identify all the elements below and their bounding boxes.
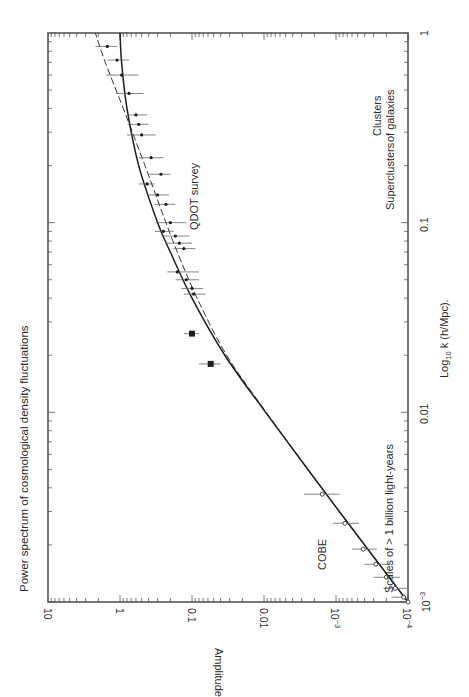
clusters-annotation: Clusters of galaxies	[371, 89, 397, 142]
data-point	[184, 293, 206, 296]
clusters-line-1: Clusters	[371, 89, 384, 142]
data-point	[352, 547, 377, 551]
k-tick-label: 1	[418, 30, 430, 36]
k-axis-suffix: k (h/Mpc).	[438, 299, 450, 351]
data-point	[163, 234, 189, 237]
data-point	[106, 73, 138, 76]
data-point	[184, 331, 199, 337]
data-point	[128, 123, 149, 126]
axis-ticks	[48, 33, 408, 602]
amplitude-tick-label: 10−4	[401, 608, 415, 628]
data-point	[156, 221, 187, 224]
data-point	[304, 492, 339, 496]
data-point	[199, 361, 221, 367]
data-point	[400, 600, 410, 604]
cobe-annotation: COBE	[316, 539, 329, 570]
plot-frame	[48, 33, 408, 602]
clusters-line-2: of galaxies	[384, 89, 397, 142]
model-curve-dashed	[95, 33, 408, 602]
amplitude-tick-label: 0.1	[186, 608, 198, 623]
qdot-annotation: QDOT survey	[188, 163, 201, 230]
data-point	[147, 193, 169, 196]
data-point	[149, 173, 171, 176]
data-point	[127, 113, 147, 116]
data-point	[174, 247, 196, 250]
model-curves	[95, 33, 408, 602]
data-point	[116, 92, 144, 95]
k-tick-label: 10−3	[418, 592, 432, 612]
amplitude-tick-label: 10	[42, 608, 54, 620]
k-tick-label: 0.01	[418, 404, 430, 424]
amplitude-tick-label: 10−3	[329, 608, 343, 628]
data-point	[95, 45, 117, 48]
data-point	[391, 595, 408, 599]
data-point	[181, 287, 203, 290]
superclusters-annotation: Superclusters	[384, 143, 397, 210]
data-point	[107, 58, 129, 61]
data-point	[175, 278, 199, 281]
billion-lightyears-annotation: Scales of > 1 billion light-years	[383, 444, 396, 593]
plot-border	[48, 33, 408, 602]
data-point	[333, 521, 359, 525]
k-tick-label: 0.1	[418, 217, 430, 232]
k-axis-label: Log10 k (h/Mpc).	[438, 299, 453, 378]
amplitude-tick-label: 1	[114, 608, 126, 614]
amplitude-axis-label: Amplitude	[213, 648, 225, 697]
data-point	[166, 242, 192, 245]
k-axis-log: Log	[438, 360, 450, 378]
data-point	[155, 230, 174, 233]
amplitude-tick-label: 0.01	[258, 608, 270, 628]
data-point	[155, 203, 176, 206]
k-axis-sub: 10	[444, 351, 453, 359]
data-point	[167, 270, 199, 273]
chart-title: Power spectrum of cosmological density f…	[18, 325, 30, 592]
data-points	[95, 45, 410, 604]
model-curve-solid	[120, 33, 408, 602]
